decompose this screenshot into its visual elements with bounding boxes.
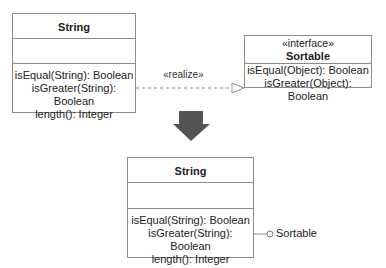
operation: isGreater(String): Boolean — [13, 82, 135, 108]
realization-triangle-icon — [232, 83, 244, 93]
provided-interface-lollipop-icon — [267, 231, 273, 237]
class-name: String — [175, 165, 207, 177]
interface-name-compartment: «interface» Sortable — [245, 36, 371, 64]
realize-label: «realize» — [163, 69, 204, 80]
lollipop-label: Sortable — [276, 227, 317, 239]
class-string-top[interactable]: String isEqual(String): Boolean isGreate… — [12, 13, 136, 113]
attributes-compartment — [128, 183, 253, 209]
operation: isEqual(String): Boolean — [128, 214, 253, 227]
class-string-bottom[interactable]: String isEqual(String): Boolean isGreate… — [127, 157, 254, 258]
operation: isGreater(String): Boolean — [128, 227, 253, 253]
operation: length(): Integer — [13, 108, 135, 121]
class-name-compartment: String — [128, 158, 253, 183]
attributes-compartment — [13, 39, 135, 64]
stereotype-label: «interface» — [245, 37, 371, 50]
operation: isGreater(Object): Boolean — [245, 77, 371, 103]
interface-sortable[interactable]: «interface» Sortable isEqual(Object): Bo… — [244, 35, 372, 88]
operation: isEqual(Object): Boolean — [245, 64, 371, 77]
operations-compartment: isEqual(Object): Boolean isGreater(Objec… — [245, 64, 371, 87]
operation: length(): Integer — [128, 253, 253, 266]
operations-compartment: isEqual(String): Boolean isGreater(Strin… — [13, 64, 135, 112]
interface-name: Sortable — [245, 50, 371, 63]
transform-down-arrow-icon — [173, 111, 210, 141]
operations-compartment: isEqual(String): Boolean isGreater(Strin… — [128, 209, 253, 257]
class-name-compartment: String — [13, 14, 135, 39]
class-name: String — [58, 21, 90, 33]
operation: isEqual(String): Boolean — [13, 69, 135, 82]
